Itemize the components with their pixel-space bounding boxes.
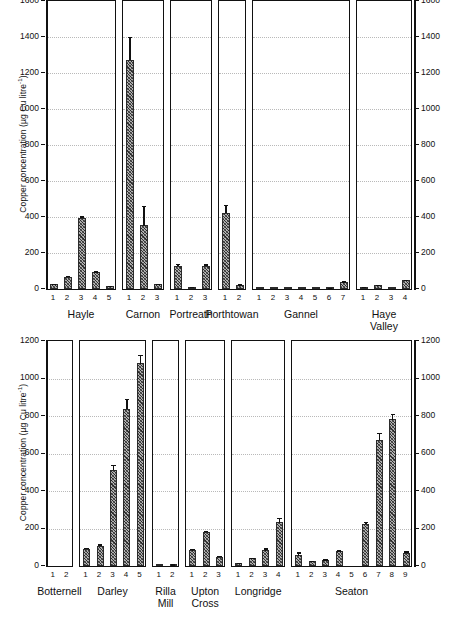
gridline (232, 454, 284, 455)
gridline (171, 109, 211, 110)
gridline (47, 379, 72, 380)
error-bar-cap (297, 552, 301, 553)
gridline (253, 73, 349, 74)
y-tick-mark (41, 36, 45, 37)
bar (322, 560, 329, 566)
y-tick-mark (415, 453, 419, 454)
gridline (47, 109, 115, 110)
bar (298, 287, 305, 289)
bar (249, 558, 256, 565)
site-label: Darley (97, 586, 127, 598)
gridline (253, 253, 349, 254)
plot-area (186, 341, 224, 566)
chart-panel (152, 340, 179, 567)
y-tick-mark (41, 72, 45, 73)
x-tick-label: 3 (216, 571, 220, 579)
x-tick-label: 2 (170, 571, 174, 579)
gridline (186, 416, 224, 417)
error-bar-cap (264, 548, 268, 549)
y-tick-mark (415, 378, 419, 379)
error-bar (143, 206, 144, 226)
bar (202, 266, 209, 289)
y-tick-mark (41, 565, 45, 566)
gridline (186, 454, 224, 455)
axis-spine (414, 0, 416, 290)
x-tick-label: 2 (271, 294, 275, 302)
plot-area (232, 341, 284, 566)
y-tick-mark (415, 340, 419, 341)
x-tick-label: 2 (141, 294, 145, 302)
error-bar (225, 205, 226, 213)
error-bar-cap (323, 559, 327, 560)
error-bar-cap (156, 284, 161, 285)
chart-row-bottom: Copper concentration (µg Cu litre-1) 020… (0, 340, 467, 623)
gridline (357, 253, 411, 254)
gridline (253, 217, 349, 218)
bar (402, 280, 409, 289)
x-tick-label: 2 (65, 294, 69, 302)
error-bar-cap (238, 284, 243, 285)
y-tick-mark (415, 72, 419, 73)
error-bar-cap (128, 37, 133, 38)
y-tick-mark (415, 252, 419, 253)
axis-spine (46, 0, 48, 290)
x-tick-label: 1 (296, 571, 300, 579)
x-tick-label: 2 (375, 294, 379, 302)
x-tick-label: 1 (127, 294, 131, 302)
y-tick-mark (41, 216, 45, 217)
error-bar-cap (404, 280, 409, 281)
bar (137, 363, 144, 566)
y-tick-mark (41, 288, 45, 289)
error-bar-cap (190, 549, 194, 550)
x-tick-label: 2 (97, 571, 101, 579)
error-bar (140, 355, 141, 363)
gridline (357, 37, 411, 38)
x-tick-label: 3 (263, 571, 267, 579)
bar (295, 555, 302, 565)
x-tick-label: 4 (124, 571, 128, 579)
error-bar (126, 399, 127, 409)
gridline (292, 379, 411, 380)
y-tick-mark (41, 108, 45, 109)
gridline (186, 529, 224, 530)
bar (312, 287, 319, 289)
gridline (232, 491, 284, 492)
bar (376, 440, 383, 566)
x-tick-label: 7 (341, 294, 345, 302)
x-tick-label: 2 (309, 571, 313, 579)
chart-panel (46, 0, 116, 290)
chart-panel (291, 340, 412, 567)
gridline (47, 454, 72, 455)
y-tick-mark (415, 0, 419, 1)
chart-panel (356, 0, 412, 290)
plot-area (123, 1, 163, 289)
gridline (47, 181, 115, 182)
error-bar-cap (310, 561, 314, 562)
site-label: Botternell (37, 586, 81, 598)
error-bar-cap (362, 287, 367, 288)
error-bar-cap (171, 564, 175, 565)
gridline (47, 529, 72, 530)
site-label: Porthtowan (205, 309, 258, 321)
plot-area (47, 1, 115, 289)
gridline (219, 181, 245, 182)
bar (256, 287, 263, 289)
x-tick-label: 6 (363, 571, 367, 579)
figure-root: Copper concentration (µg Cu litre-1) 020… (0, 0, 467, 643)
x-tick-label: 2 (249, 571, 253, 579)
gridline (357, 145, 411, 146)
x-tick-label: 3 (110, 571, 114, 579)
x-tick-label: 9 (403, 571, 407, 579)
error-bar-cap (204, 264, 209, 265)
site-label: Gannel (284, 309, 318, 321)
gridline (171, 217, 211, 218)
gridline (171, 253, 211, 254)
error-bar-cap (108, 286, 113, 287)
gridline (219, 37, 245, 38)
bar (403, 553, 410, 566)
bar (284, 287, 291, 289)
plot-area (357, 1, 411, 289)
x-tick-label: 4 (336, 571, 340, 579)
gridline (171, 145, 211, 146)
chart-panel (79, 340, 146, 567)
